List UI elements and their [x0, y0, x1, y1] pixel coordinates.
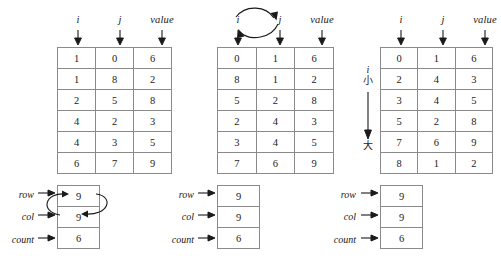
table-row: 1 0 6	[58, 48, 172, 69]
cell-j: 1	[418, 153, 455, 174]
label-col: col	[322, 212, 356, 222]
column-headers-right: i j value	[380, 14, 501, 26]
scalar-row-row: 9	[381, 186, 423, 207]
cell-value: 2	[455, 153, 492, 174]
table-row: 8 1 2	[218, 69, 334, 90]
cell-i: 5	[381, 111, 418, 132]
cell-i: 3	[381, 90, 418, 111]
table-row: 5 2 8	[381, 111, 493, 132]
cell-value: 6	[295, 48, 334, 69]
triplet-table-right: 0 1 6 2 4 3 3 4 5 5 2 8 7 6 9	[380, 47, 493, 174]
cell-i: 1	[58, 48, 96, 69]
cell-j: 4	[256, 132, 295, 153]
table-row: 2 4 3	[218, 111, 334, 132]
scalar-value-row: 9	[218, 186, 260, 207]
table-row: 0 1 6	[218, 48, 334, 69]
cell-value: 9	[455, 132, 492, 153]
cell-j: 1	[256, 69, 295, 90]
cell-i: 0	[218, 48, 257, 69]
table-row: 0 1 6	[381, 48, 493, 69]
table-row: 4 2 3	[58, 111, 172, 132]
scalar-boxes-left: 9 9 6	[57, 185, 100, 249]
scalar-value-row: 9	[58, 186, 100, 207]
label-col: col	[160, 212, 194, 222]
table-row: 5 2 8	[218, 90, 334, 111]
table-row: 3 4 5	[381, 90, 493, 111]
cell-j: 7	[96, 153, 134, 174]
column-header-value: value	[464, 14, 501, 26]
scalar-row-col: 9	[58, 207, 100, 228]
cell-value: 3	[455, 69, 492, 90]
cell-j: 2	[256, 90, 295, 111]
column-header-i: i	[57, 14, 99, 26]
scalar-boxes-right: 9 9 6	[380, 185, 423, 249]
cell-j: 2	[418, 111, 455, 132]
table-row: 7 6 9	[381, 132, 493, 153]
sort-note-to: 大	[355, 140, 381, 151]
cell-i: 7	[381, 132, 418, 153]
sort-note-variable: i	[355, 64, 381, 75]
cell-value: 5	[295, 132, 334, 153]
scalar-row-col: 9	[381, 207, 423, 228]
scalar-value-col: 9	[381, 207, 423, 228]
table-row: 2 4 3	[381, 69, 493, 90]
cell-value: 9	[295, 153, 334, 174]
table-row: 2 5 8	[58, 90, 172, 111]
cell-j: 4	[256, 111, 295, 132]
column-header-i: i	[217, 14, 259, 26]
scalar-row-count: 6	[218, 228, 260, 249]
cell-j: 5	[96, 90, 134, 111]
column-headers-middle: i j value	[217, 14, 343, 26]
table-row: 4 3 5	[58, 132, 172, 153]
scalar-value-col: 9	[58, 207, 100, 228]
scalar-boxes-middle: 9 9 6	[217, 185, 260, 249]
table-row: 1 8 2	[58, 69, 172, 90]
scalar-row-row: 9	[58, 186, 100, 207]
cell-i: 2	[218, 111, 257, 132]
panel-middle: i j value 0 1 6 8	[166, 0, 334, 262]
scalar-value-count: 6	[218, 228, 260, 249]
cell-j: 8	[96, 69, 134, 90]
label-count: count	[0, 235, 34, 245]
scalar-value-col: 9	[218, 207, 260, 228]
triplet-table-middle: 0 1 6 8 1 2 5 2 8 2 4 3 3 4 5	[217, 47, 334, 174]
label-count: count	[160, 235, 194, 245]
cell-i: 4	[58, 111, 96, 132]
sort-order-note: i 小	[355, 64, 381, 86]
table-row: 8 1 2	[381, 153, 493, 174]
cell-i: 2	[381, 69, 418, 90]
cell-value: 8	[455, 111, 492, 132]
cell-j: 3	[96, 132, 134, 153]
column-header-j: j	[99, 14, 141, 26]
cell-i: 5	[218, 90, 257, 111]
cell-i: 3	[218, 132, 257, 153]
cell-j: 6	[256, 153, 295, 174]
column-headers-left: i j value	[57, 14, 183, 26]
cell-i: 2	[58, 90, 96, 111]
panel-right: i j value i 小 大 0 1 6	[330, 0, 493, 262]
label-row: row	[0, 190, 34, 200]
label-col: col	[0, 212, 34, 222]
cell-i: 0	[381, 48, 418, 69]
label-count: count	[322, 235, 356, 245]
cell-value: 5	[455, 90, 492, 111]
cell-i: 4	[58, 132, 96, 153]
cell-value: 6	[455, 48, 492, 69]
sort-note-from: 小	[355, 75, 381, 86]
cell-i: 8	[381, 153, 418, 174]
cell-i: 1	[58, 69, 96, 90]
triplet-table-left: 1 0 6 1 8 2 2 5 8 4 2 3 4 3 5	[57, 47, 172, 174]
scalar-row-col: 9	[218, 207, 260, 228]
cell-i: 8	[218, 69, 257, 90]
cell-value: 8	[295, 90, 334, 111]
cell-j: 2	[96, 111, 134, 132]
label-row: row	[322, 190, 356, 200]
scalar-row-row: 9	[218, 186, 260, 207]
scalar-value-count: 6	[381, 228, 423, 249]
column-header-j: j	[259, 14, 301, 26]
scalar-value-count: 6	[58, 228, 100, 249]
label-row: row	[160, 190, 194, 200]
sort-order-note-end: 大	[355, 140, 381, 151]
cell-j: 0	[96, 48, 134, 69]
table-row: 6 7 9	[58, 153, 172, 174]
